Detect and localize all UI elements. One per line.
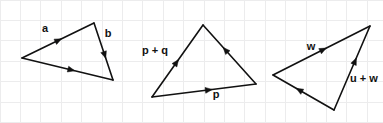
label-w: w — [306, 40, 316, 52]
label-p: p — [213, 88, 220, 100]
vector-diagram-canvas: abp + qpwu + w — [0, 0, 383, 123]
label-a: a — [42, 22, 49, 34]
label-u-plus-w: u + w — [350, 72, 378, 84]
label-b: b — [105, 27, 112, 39]
label-p-plus-q: p + q — [142, 44, 168, 56]
vector-triangles-figure: abp + qpwu + w — [0, 0, 383, 123]
